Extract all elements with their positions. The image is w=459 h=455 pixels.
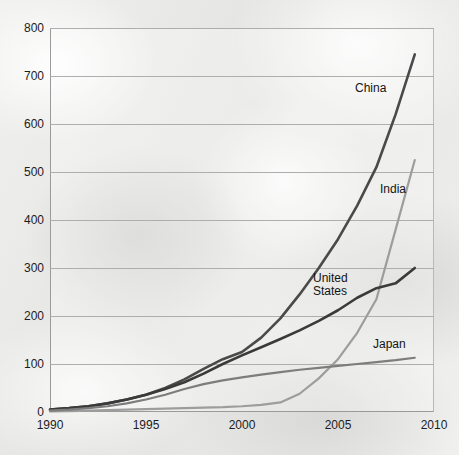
line-united-states [50,268,415,410]
series-lines [0,0,459,455]
line-china [50,54,415,409]
series-label-japan: Japan [373,338,406,351]
series-label-china: China [355,82,386,95]
series-label-india: India [380,183,406,196]
chart-container: 800 700 600 500 400 300 200 100 0 1990 1… [0,0,459,455]
series-label-united-states: United States [313,272,348,298]
